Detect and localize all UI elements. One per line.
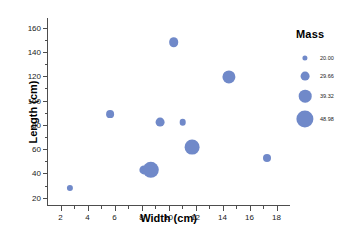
legend: Mass 20.0029.6639.3248.98 — [296, 28, 354, 124]
legend-title: Mass — [296, 28, 354, 40]
x-tick-minor — [74, 206, 75, 209]
data-point-bubble — [155, 118, 164, 127]
legend-bubble — [301, 72, 310, 81]
x-tick-major — [142, 206, 143, 211]
data-point-bubble — [106, 110, 114, 118]
y-tick-major — [43, 173, 48, 174]
y-tick-label: 140 — [28, 48, 41, 57]
x-tick-major — [88, 206, 89, 211]
y-tick-minor — [45, 113, 48, 114]
y-tick-minor — [45, 88, 48, 89]
x-axis-title: Width (cm) — [47, 212, 290, 224]
y-tick-major — [43, 149, 48, 150]
y-tick-major — [43, 101, 48, 102]
x-tick-major — [61, 206, 62, 211]
x-tick-major — [169, 206, 170, 211]
data-point-bubble — [67, 185, 73, 191]
y-tick-minor — [45, 161, 48, 162]
x-tick-minor — [128, 206, 129, 209]
x-tick-minor — [182, 206, 183, 209]
plot-area: 2040608010012014016024681012141618 — [47, 18, 290, 205]
legend-entries: 20.0029.6639.3248.98 — [296, 46, 354, 124]
x-tick-major — [277, 206, 278, 211]
legend-label: 29.66 — [320, 73, 334, 79]
data-point-bubble — [169, 37, 179, 47]
data-point-bubble — [179, 119, 186, 126]
y-tick-label: 60 — [32, 145, 41, 154]
x-tick-minor — [209, 206, 210, 209]
y-tick-label: 40 — [32, 169, 41, 178]
data-point-bubble — [263, 154, 271, 162]
y-tick-minor — [45, 40, 48, 41]
data-point-bubble — [185, 139, 200, 154]
y-tick-label: 120 — [28, 72, 41, 81]
bubble-chart: Length (cm) 2040608010012014016024681012… — [0, 0, 354, 249]
x-tick-major — [250, 206, 251, 211]
legend-bubble — [296, 110, 313, 127]
legend-label: 39.32 — [320, 93, 334, 99]
y-tick-major — [43, 198, 48, 199]
legend-bubble — [302, 55, 307, 60]
y-tick-major — [43, 76, 48, 77]
x-tick-major — [223, 206, 224, 211]
legend-label: 48.98 — [320, 116, 334, 122]
x-tick-major — [196, 206, 197, 211]
data-point-bubble — [143, 162, 159, 178]
x-tick-minor — [263, 206, 264, 209]
y-tick-minor — [45, 186, 48, 187]
y-tick-major — [43, 52, 48, 53]
y-tick-minor — [45, 137, 48, 138]
x-tick-minor — [155, 206, 156, 209]
y-tick-label: 160 — [28, 23, 41, 32]
y-tick-label: 100 — [28, 96, 41, 105]
y-tick-major — [43, 125, 48, 126]
legend-bubble — [299, 90, 312, 103]
y-tick-label: 80 — [32, 120, 41, 129]
y-axis-title-wrap: Length (cm) — [6, 18, 24, 205]
y-tick-minor — [45, 64, 48, 65]
x-tick-minor — [236, 206, 237, 209]
y-axis-title: Length (cm) — [27, 80, 39, 143]
x-tick-major — [115, 206, 116, 211]
x-tick-minor — [101, 206, 102, 209]
y-tick-major — [43, 28, 48, 29]
y-axis-line — [47, 18, 48, 205]
data-point-bubble — [223, 70, 236, 83]
y-tick-label: 20 — [32, 193, 41, 202]
legend-label: 20.00 — [320, 55, 334, 61]
